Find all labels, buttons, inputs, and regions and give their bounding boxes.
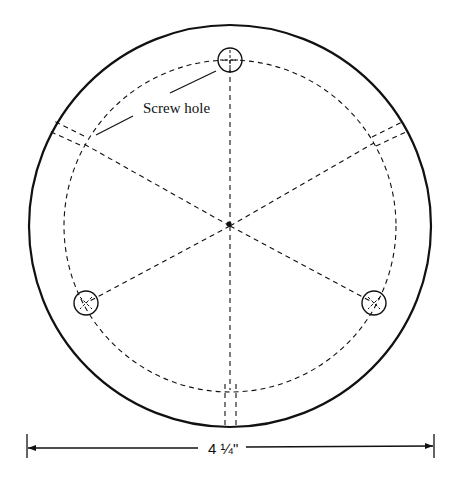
channel-upper-right	[372, 122, 408, 146]
center-point	[226, 221, 231, 226]
screw-hole-label: Screw hole	[143, 100, 210, 116]
channel-upper-left	[49, 121, 84, 145]
diameter-label: 4 ¼"	[208, 440, 238, 457]
diagram-canvas: Screw hole 4 ¼"	[0, 0, 457, 483]
channel-bottom	[225, 384, 236, 427]
